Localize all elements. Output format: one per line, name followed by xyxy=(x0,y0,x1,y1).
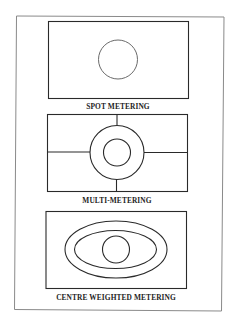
multi-metering-label: MULTI-METERING xyxy=(82,196,151,205)
centre-weighted-circle xyxy=(103,236,130,263)
multi-metering-panel: MULTI-METERING xyxy=(48,115,188,206)
centre-weighted-metering-label: CENTRE WEIGHTED METERING xyxy=(56,293,176,302)
multi-inner-circle xyxy=(104,139,131,166)
spot-metering-panel: SPOT METERING xyxy=(49,22,189,112)
spot-metering-label: SPOT METERING xyxy=(86,102,150,111)
multi-outer-circle xyxy=(90,126,144,180)
metering-modes-diagram: SPOT METERING MULTI-METERING CENTRE WEIG… xyxy=(0,0,239,328)
spot-frame xyxy=(49,22,189,99)
centre-weighted-metering-panel: CENTRE WEIGHTED METERING xyxy=(46,212,187,303)
centre-weighted-frame xyxy=(46,212,187,289)
spot-circle xyxy=(99,40,138,79)
centre-weighted-outer-ellipse xyxy=(65,221,167,278)
